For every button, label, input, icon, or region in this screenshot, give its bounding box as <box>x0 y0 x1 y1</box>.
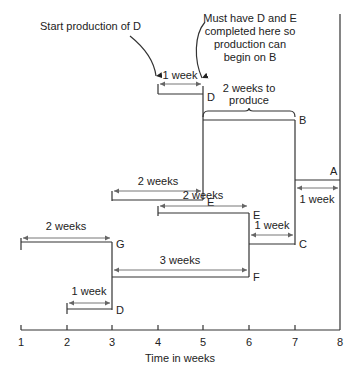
svg-text:5: 5 <box>200 336 206 348</box>
svg-text:6: 6 <box>246 336 252 348</box>
x-axis-label: Time in weeks <box>145 352 215 364</box>
svg-text:7: 7 <box>292 336 298 348</box>
item-d-top: 1 week D <box>158 69 215 103</box>
svg-text:2 weeks to: 2 weeks to <box>223 82 276 94</box>
svg-text:C: C <box>299 238 307 250</box>
svg-text:begin on B: begin on B <box>224 51 277 63</box>
svg-text:1 week: 1 week <box>72 285 107 297</box>
callout-arrow-start-d <box>130 36 156 76</box>
item-d-bottom: 1 week D <box>67 285 124 316</box>
svg-text:D: D <box>207 91 215 103</box>
svg-text:2 weeks: 2 weeks <box>183 189 224 201</box>
callout-arrow-must-have <box>196 22 205 78</box>
svg-text:2 weeks: 2 weeks <box>46 220 87 232</box>
svg-text:1 week: 1 week <box>300 193 335 205</box>
svg-text:1: 1 <box>18 336 24 348</box>
svg-text:2: 2 <box>64 336 70 348</box>
svg-text:G: G <box>116 238 125 250</box>
svg-text:completed here so: completed here so <box>205 25 296 37</box>
svg-text:3: 3 <box>109 336 115 348</box>
svg-text:1 week: 1 week <box>255 219 290 231</box>
svg-text:produce: produce <box>229 94 269 106</box>
svg-text:B: B <box>299 114 306 126</box>
svg-text:F: F <box>253 271 260 283</box>
time-phased-diagram: Start production of D Must have D and E … <box>0 0 361 375</box>
item-a: 1 week A <box>295 165 340 205</box>
svg-text:2 weeks: 2 weeks <box>138 175 179 187</box>
x-axis: 1 2 3 4 5 6 7 8 Time in weeks <box>18 325 343 364</box>
svg-text:D: D <box>116 304 124 316</box>
svg-text:4: 4 <box>155 336 161 348</box>
callout-must-have: Must have D and E completed here so prod… <box>203 12 297 63</box>
svg-text:8: 8 <box>337 336 343 348</box>
item-g: 2 weeks G <box>21 220 125 250</box>
svg-text:A: A <box>330 165 338 177</box>
item-b: 2 weeks to produce B <box>203 82 306 200</box>
svg-text:Must have D and E: Must have D and E <box>203 12 297 24</box>
svg-text:1 week: 1 week <box>163 69 198 81</box>
svg-text:production can: production can <box>214 38 286 50</box>
callout-start-d: Start production of D <box>40 20 141 32</box>
svg-text:3 weeks: 3 weeks <box>160 254 201 266</box>
item-f: 3 weeks F <box>112 254 260 283</box>
item-c: 1 week C <box>249 219 307 250</box>
